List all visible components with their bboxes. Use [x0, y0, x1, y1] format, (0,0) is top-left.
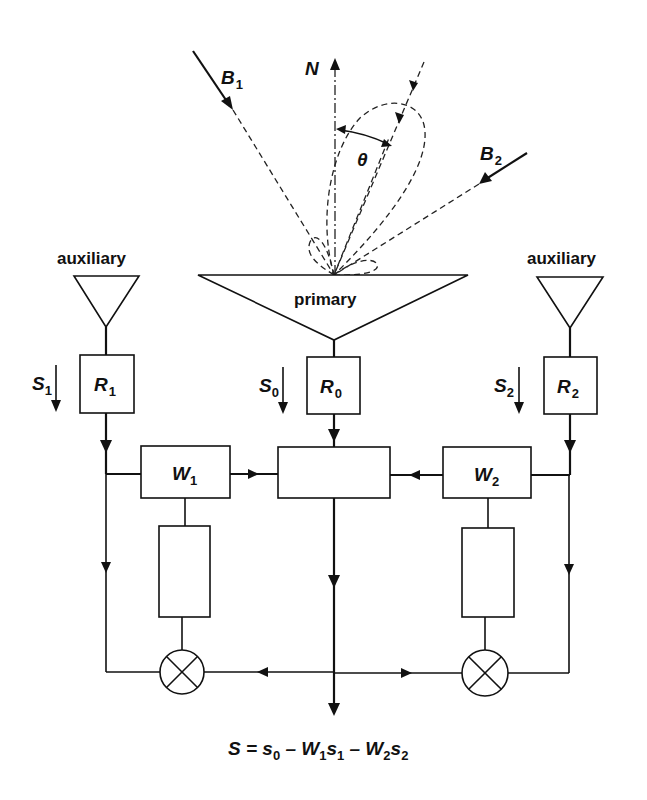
primary-label: primary — [294, 290, 357, 309]
mixer-left — [160, 650, 204, 694]
r1-output-arrow-icon — [100, 440, 112, 453]
right-auxiliary-label: auxiliary — [527, 249, 597, 268]
w1-arrow-icon — [248, 469, 259, 479]
central-combiner — [278, 447, 390, 498]
beam2-dashed-path — [334, 184, 479, 275]
processing-network: W1 W2 — [100, 413, 576, 716]
left-aux-arrow-icon — [101, 562, 111, 573]
s1-arrow-icon — [51, 400, 61, 412]
left-auxiliary-antenna — [74, 276, 139, 327]
signal-arrow-icon — [409, 80, 418, 91]
normal-arrow-icon — [330, 58, 340, 70]
correlator-filter-right — [462, 528, 514, 617]
s0-label: S0 — [259, 375, 279, 400]
normal-label: N — [305, 58, 320, 79]
left-sidelobe — [309, 238, 334, 275]
sidelobe-canceller-diagram: N B1 B2 θ auxiliary primary auxili — [0, 0, 647, 800]
output-equation: S = s0 – W1s1 – W2s2 — [228, 738, 408, 763]
right-auxiliary-antenna — [537, 277, 603, 328]
w2-arrow-icon — [409, 470, 420, 480]
s2-arrow-icon — [514, 402, 524, 414]
right-aux-arrow-icon — [564, 564, 574, 575]
beam2-label: B2 — [480, 143, 502, 168]
left-auxiliary-label: auxiliary — [57, 249, 127, 268]
output-arrow-icon — [328, 703, 340, 716]
theta-arrow-left-icon — [336, 125, 346, 134]
feedback-right-arrow-icon — [401, 668, 412, 678]
feedback-left-arrow-icon — [257, 667, 268, 677]
beam1-arrow-icon — [221, 96, 233, 110]
antennas: auxiliary primary auxiliary — [57, 249, 603, 340]
beam1-dashed-path — [233, 110, 334, 275]
s0-arrow-icon — [278, 402, 288, 414]
radiation-geometry: N B1 B2 θ — [193, 51, 527, 275]
s2-label: S2 — [494, 375, 514, 400]
signal-arrow2-icon — [395, 112, 404, 124]
mixer-right — [462, 650, 508, 696]
receivers: R1 S1 R0 S0 R2 S2 — [32, 327, 597, 414]
theta-label: θ — [357, 149, 368, 170]
beam1-label: B1 — [221, 67, 243, 92]
r0-output-arrow-icon — [328, 429, 340, 442]
beam2-arrow-icon — [479, 172, 492, 184]
s1-label: S1 — [32, 373, 52, 398]
correlator-filter-left — [159, 526, 210, 617]
r2-output-arrow-icon — [564, 440, 576, 453]
combiner-mid-arrow-icon — [328, 575, 340, 588]
